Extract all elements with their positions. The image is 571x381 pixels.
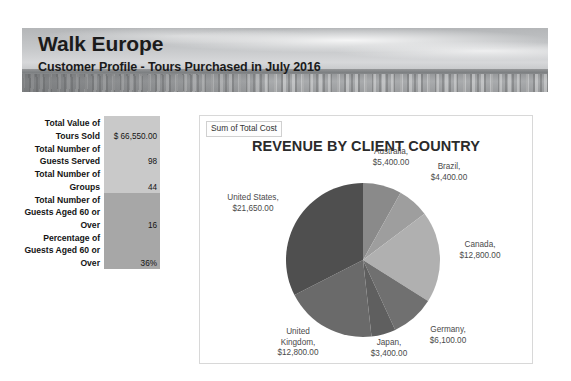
- slice-label-brazil: Brazil, $4,400.00: [416, 162, 482, 183]
- table-row: Total Number of Guests Served 98: [22, 142, 160, 168]
- table-row: Total Number of Groups 44: [22, 167, 160, 193]
- banner-text-layer: Walk Europe Customer Profile - Tours Pur…: [22, 28, 548, 92]
- metric-label-total-value: Total Value of Tours Sold: [22, 116, 104, 142]
- metric-label-guests-60-over: Total Number of Guests Aged 60 or Over: [22, 193, 104, 231]
- table-row: Total Number of Guests Aged 60 or Over 1…: [22, 193, 160, 231]
- metric-label-pct-60-over: Percentage of Guests Aged 60 or Over: [22, 231, 104, 269]
- page-title: Walk Europe: [38, 32, 163, 56]
- table-row: Percentage of Guests Aged 60 or Over 36%: [22, 231, 160, 269]
- metric-value-pct-60-over: 36%: [104, 231, 160, 269]
- metric-value-total-value: $ 66,550.00: [104, 116, 160, 142]
- slice-label-japan: Japan, $3,400.00: [355, 338, 423, 359]
- page-subtitle: Customer Profile - Tours Purchased in Ju…: [38, 60, 321, 74]
- table-row: Total Value of Tours Sold $ 66,550.00: [22, 116, 160, 142]
- header-banner: Walk Europe Customer Profile - Tours Pur…: [22, 28, 548, 92]
- slice-label-united-kingdom: United Kingdom, $12,800.00: [262, 327, 334, 359]
- metric-value-guests-served: 98: [104, 142, 160, 168]
- metric-label-guests-served: Total Number of Guests Served: [22, 142, 104, 168]
- metrics-table: Total Value of Tours Sold $ 66,550.00 To…: [22, 116, 160, 269]
- dashboard-page: Walk Europe Customer Profile - Tours Pur…: [0, 0, 571, 381]
- metric-value-groups: 44: [104, 167, 160, 193]
- pie-chart-panel[interactable]: Sum of Total Cost REVENUE BY CLIENT COUN…: [199, 115, 533, 364]
- metric-label-groups: Total Number of Groups: [22, 167, 104, 193]
- slice-label-united-states: United States, $21,650.00: [214, 193, 292, 214]
- pie-chart[interactable]: Australia, $5,400.00 Brazil, $4,400.00 C…: [200, 116, 532, 363]
- slice-label-canada: Canada, $12,800.00: [444, 240, 516, 261]
- metric-value-guests-60-over: 16: [104, 193, 160, 231]
